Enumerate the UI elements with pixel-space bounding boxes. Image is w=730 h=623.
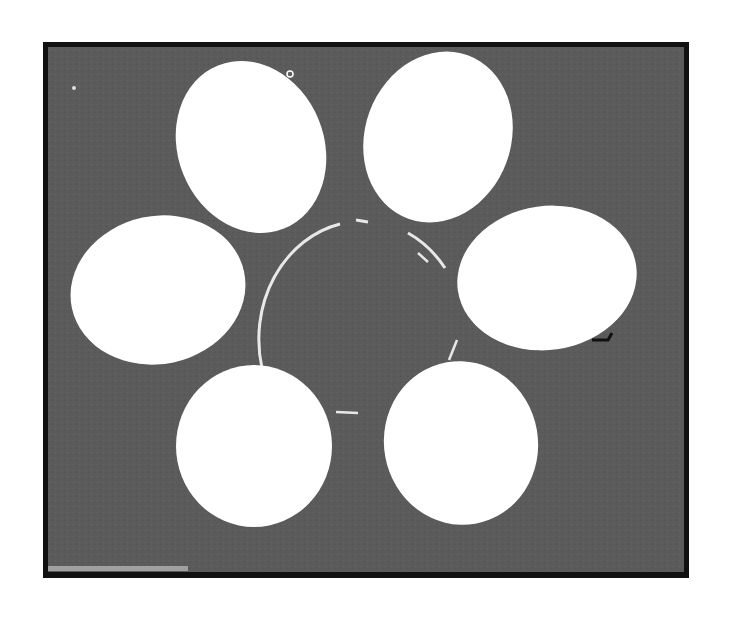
egg-bottom-left xyxy=(176,365,332,527)
speck xyxy=(72,86,76,90)
photo-frame xyxy=(43,42,689,578)
bottom-edge-noise xyxy=(48,566,188,571)
egg-ring-figure xyxy=(48,47,684,572)
